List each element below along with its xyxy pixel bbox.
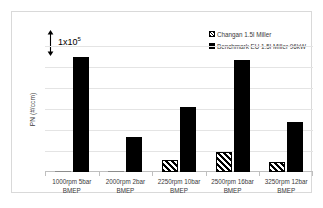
x-axis-label-3250rpm-12bar: 3250rpm 12bar BMEP: [259, 177, 313, 195]
x-axis-tick: [312, 172, 313, 176]
x-axis-label-2250rpm-10bar: 2250rpm 10bar BMEP: [152, 177, 206, 195]
bar-changan-2500rpm-16bar: [216, 152, 232, 172]
x-axis-label-line1: 2000rpm 2bar: [106, 178, 145, 185]
bar-benchmark-2250rpm-10bar: [180, 107, 196, 172]
bar-changan-2250rpm-10bar: [162, 160, 178, 172]
x-axis-label-line2: BMEP: [206, 186, 260, 195]
y-axis-title: PN (#/ccm): [26, 46, 40, 172]
x-axis-label-line1: 1000rpm 5bar: [52, 178, 91, 185]
bar-group-2000rpm-2bar: [99, 46, 153, 172]
x-axis-tick: [152, 172, 153, 176]
x-axis-tick: [206, 172, 207, 176]
x-axis-tick: [99, 172, 100, 176]
bar-changan-3250rpm-12bar: [269, 162, 285, 173]
bar-changan-2000rpm-2bar: [108, 171, 124, 172]
x-axis-tick: [259, 172, 260, 176]
x-axis-label-line2: BMEP: [99, 186, 153, 195]
bars-layer: [45, 46, 313, 172]
bar-benchmark-2500rpm-16bar: [234, 60, 250, 172]
x-axis-label-2500rpm-16bar: 2500rpm 16bar BMEP: [206, 177, 260, 195]
bar-group-3250rpm-12bar: [259, 46, 313, 172]
bar-changan-1000rpm-5bar: [55, 171, 71, 172]
x-axis-label-2000rpm-2bar: 2000rpm 2bar BMEP: [99, 177, 153, 195]
bar-benchmark-1000rpm-5bar: [73, 57, 89, 173]
x-axis-label-line2: BMEP: [45, 186, 99, 195]
chart-container: PN (#/ccm) 1x105 Changan 1.5l Miller Ben…: [11, 11, 312, 193]
legend-swatch-changan-icon: [209, 31, 215, 37]
bar-benchmark-3250rpm-12bar: [287, 122, 303, 172]
x-axis-labels: 1000rpm 5bar BMEP 2000rpm 2bar BMEP 2250…: [45, 177, 313, 195]
x-axis-label-1000rpm-5bar: 1000rpm 5bar BMEP: [45, 177, 99, 195]
x-axis-label-line1: 2250rpm 10bar: [158, 178, 201, 185]
x-axis-label-line2: BMEP: [259, 186, 313, 195]
plot-area: [45, 46, 313, 172]
y-axis-title-label: PN (#/ccm): [30, 92, 37, 126]
x-axis-label-line2: BMEP: [152, 186, 206, 195]
bar-group-2250rpm-10bar: [152, 46, 206, 172]
legend-item-changan: Changan 1.5l Miller: [209, 29, 323, 39]
x-axis-tick: [45, 172, 46, 176]
x-axis-label-line1: 2500rpm 16bar: [211, 178, 254, 185]
bar-group-1000rpm-5bar: [45, 46, 99, 172]
x-axis-label-line1: 3250rpm 12bar: [265, 178, 308, 185]
bar-group-2500rpm-16bar: [206, 46, 260, 172]
scale-annotation-exponent: 5: [78, 36, 81, 42]
legend-label-changan: Changan 1.5l Miller: [217, 31, 271, 38]
bar-benchmark-2000rpm-2bar: [126, 137, 142, 172]
